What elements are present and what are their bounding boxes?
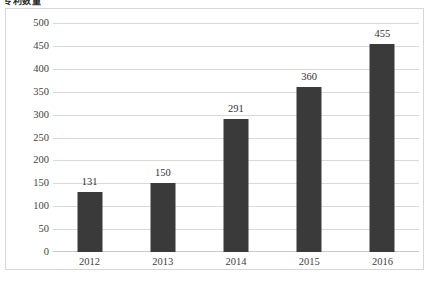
y-axis-tick-0: 0 <box>15 247 49 258</box>
x-axis-tick-2012: 2012 <box>53 257 126 268</box>
y-axis-tick-500: 500 <box>15 18 49 29</box>
bar-value-label-2013: 150 <box>155 168 171 179</box>
bar-group: 291 <box>199 23 272 252</box>
x-axis-tick-2016: 2016 <box>346 257 419 268</box>
y-axis-tick-250: 250 <box>15 132 49 143</box>
bar-group: 150 <box>126 23 199 252</box>
x-axis: 20122013201420152016 <box>53 257 419 273</box>
bar-2013[interactable] <box>150 183 175 252</box>
x-axis-tick-2015: 2015 <box>273 257 346 268</box>
bar-value-label-2015: 360 <box>301 72 317 83</box>
y-axis-tick-150: 150 <box>15 178 49 189</box>
bar-group: 455 <box>346 23 419 252</box>
chart-title: 专利数量 <box>3 0 41 6</box>
y-axis-tick-50: 50 <box>15 224 49 235</box>
bar-2014[interactable] <box>223 119 248 252</box>
chart-frame: 500450400350300250200150100500 131150291… <box>5 8 424 270</box>
y-axis-tick-300: 300 <box>15 109 49 120</box>
x-axis-tick-2014: 2014 <box>199 257 272 268</box>
y-axis-tick-400: 400 <box>15 64 49 75</box>
y-axis-tick-100: 100 <box>15 201 49 212</box>
y-axis-tick-350: 350 <box>15 86 49 97</box>
x-axis-tick-2013: 2013 <box>126 257 199 268</box>
bar-value-label-2014: 291 <box>228 104 244 115</box>
bar-value-label-2016: 455 <box>375 29 391 40</box>
bar-2015[interactable] <box>297 87 322 252</box>
bar-2016[interactable] <box>370 44 395 252</box>
y-axis: 500450400350300250200150100500 <box>11 23 49 252</box>
bar-value-label-2012: 131 <box>82 177 98 188</box>
bar-2012[interactable] <box>77 192 102 252</box>
y-axis-tick-450: 450 <box>15 41 49 52</box>
bar-group: 360 <box>273 23 346 252</box>
y-axis-tick-200: 200 <box>15 155 49 166</box>
bar-series: 131150291360455 <box>53 23 419 252</box>
bar-group: 131 <box>53 23 126 252</box>
